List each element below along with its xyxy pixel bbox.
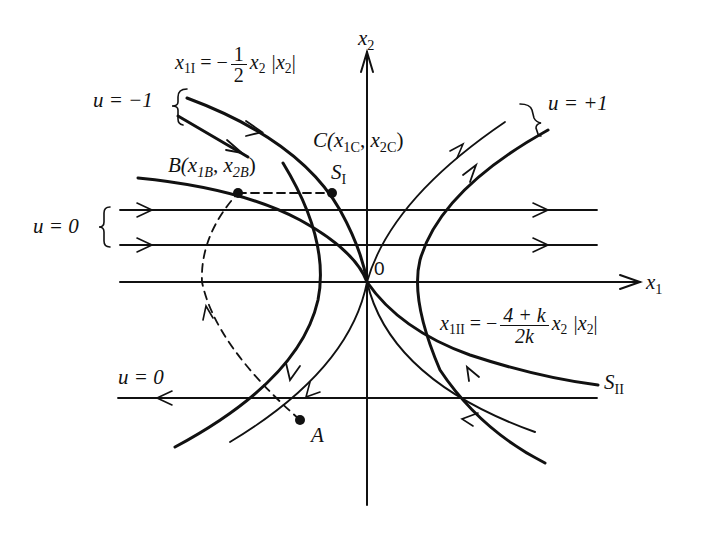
eq2-abs-close: | <box>594 312 598 334</box>
dashed-trajectory-A-to-B <box>202 193 300 420</box>
arrow-up-icon <box>203 306 213 320</box>
eq2-lhs-sub: 1II <box>449 322 465 337</box>
eq2-abs: |x <box>572 312 586 334</box>
eq-lhs: x <box>175 51 184 73</box>
B-x: x <box>188 153 197 177</box>
switching-curve-II-equation: x1II = −4 + k2kx2 |x2| <box>440 305 598 346</box>
C-y: x <box>370 128 379 152</box>
x2-subscript: 2 <box>367 37 374 53</box>
eq-rhs-sub: 2 <box>259 61 266 76</box>
S-I-sub: I <box>342 171 347 187</box>
switching-curve-I-equation: x1I = −12x2 |x2| <box>175 44 296 85</box>
eq-abs-close: | <box>292 51 296 73</box>
u-minus1-trajectory <box>178 116 248 157</box>
C-sep: , <box>360 128 371 152</box>
eq-abs-sub: 2 <box>285 61 292 76</box>
eq2-rhs-sub: 2 <box>561 322 568 337</box>
point-A-marker <box>295 415 305 425</box>
fraction: 4 + k2k <box>500 305 548 346</box>
S-II-label: SII <box>604 372 624 393</box>
point-A-label: A <box>311 425 324 446</box>
eq2-abs-sub: 2 <box>587 322 594 337</box>
C-x: x <box>334 128 343 152</box>
fraction: 12 <box>231 44 247 85</box>
B-close: ) <box>249 153 256 177</box>
eq-abs: |x <box>270 51 284 73</box>
point-B-label: B(x1B, x2B) <box>168 155 256 176</box>
u-zero-lower-label: u = 0 <box>118 367 164 388</box>
arrow-up-icon <box>467 367 479 381</box>
point-B-marker <box>233 188 243 198</box>
B-x-sub: 1B <box>197 164 213 180</box>
eq2-sign: = − <box>470 312 498 334</box>
arrow-down-icon <box>286 363 300 380</box>
C-x-sub: 1C <box>343 139 360 155</box>
point-C-label: C(x1C, x2C) <box>313 130 403 151</box>
left-parabola-thick <box>175 163 320 447</box>
x2-var: x <box>358 26 367 50</box>
B-name: B( <box>168 153 188 177</box>
eq-lhs-sub: 1I <box>184 61 195 76</box>
eq2-rhs: x <box>552 312 561 334</box>
x2-axis-label: x2 <box>358 28 374 49</box>
B-y: x <box>224 153 233 177</box>
brace-u-plus1-icon <box>520 104 541 136</box>
u-zero-upper-label: u = 0 <box>33 216 79 237</box>
B-sep: , <box>213 153 224 177</box>
S-II-sub: II <box>615 381 625 397</box>
u-plus1-label: u = +1 <box>548 93 608 114</box>
u-minus1-label: u = −1 <box>93 90 153 111</box>
numerator: 4 + k <box>500 305 548 326</box>
eq2-lhs: x <box>440 312 449 334</box>
x1-var: x <box>646 270 655 294</box>
B-y-sub: 2B <box>233 164 249 180</box>
brace-u0-icon <box>99 207 110 247</box>
origin-label: 0 <box>374 259 385 278</box>
S-I-name: S <box>331 160 342 184</box>
C-close: ) <box>396 128 403 152</box>
eq-rhs: x <box>250 51 259 73</box>
phase-plane-diagram <box>0 0 703 533</box>
x1-axis-label: x1 <box>646 272 662 293</box>
S-I-label: SI <box>331 162 346 183</box>
right-parabola-thick <box>418 130 549 463</box>
C-y-sub: 2C <box>380 139 397 155</box>
numerator: 1 <box>231 44 247 65</box>
eq-sign: = − <box>200 51 228 73</box>
x1-subscript: 1 <box>655 281 662 297</box>
denominator: 2k <box>512 326 537 346</box>
arrow-up-icon <box>450 144 463 158</box>
S-II-name: S <box>604 370 615 394</box>
C-name: C( <box>313 128 334 152</box>
denominator: 2 <box>231 65 247 85</box>
point-C-marker <box>327 188 337 198</box>
